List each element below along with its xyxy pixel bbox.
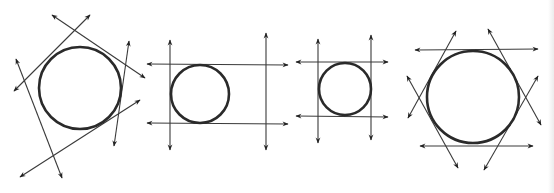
- circle-hexagon-tangents: [407, 29, 541, 170]
- tangent-line-double-arrow: [52, 15, 145, 78]
- tangent-line-double-arrow: [296, 116, 388, 117]
- circle-rectangle-tangents: [147, 33, 288, 150]
- circle-pentagon-tangents: [14, 15, 145, 178]
- tangent-line-double-arrow: [407, 76, 458, 168]
- inscribed-circle: [319, 63, 371, 115]
- inscribed-circle: [171, 65, 229, 123]
- tangent-line-double-arrow: [14, 15, 90, 91]
- tangent-line-double-arrow: [16, 59, 62, 178]
- inscribed-circle: [39, 47, 121, 129]
- right-edge-shadow: [548, 0, 554, 193]
- tangent-lines-diagram: [0, 0, 554, 193]
- tangent-line-double-arrow: [147, 123, 288, 124]
- tangent-line-double-arrow: [147, 64, 288, 65]
- tangent-line-double-arrow: [20, 100, 140, 177]
- circle-square-tangents: [296, 35, 388, 143]
- inscribed-circle: [427, 51, 519, 143]
